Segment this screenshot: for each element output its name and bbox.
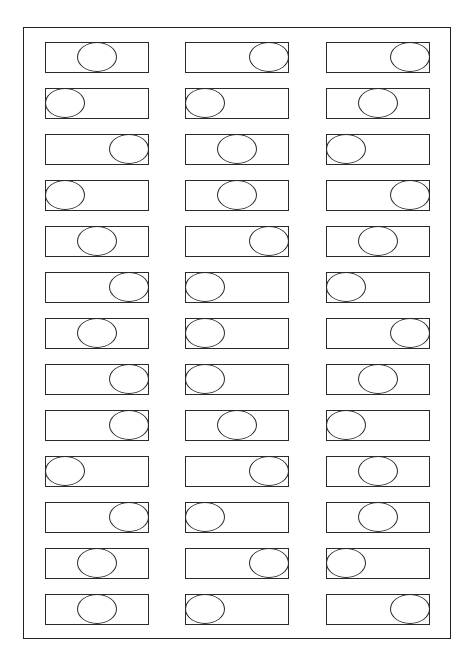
- oval-icon: [217, 134, 257, 164]
- rectangle-cell-r9-c3[interactable]: [326, 410, 430, 441]
- rectangle-cell-r2-c2[interactable]: [185, 88, 289, 119]
- rectangle-cell-r6-c2[interactable]: [185, 272, 289, 303]
- oval-icon: [326, 134, 366, 164]
- oval-icon: [326, 272, 366, 302]
- oval-icon: [77, 226, 117, 256]
- oval-icon: [249, 548, 289, 578]
- oval-icon: [390, 42, 430, 72]
- oval-icon: [45, 456, 85, 486]
- oval-icon: [109, 134, 149, 164]
- rectangle-cell-r5-c2[interactable]: [185, 226, 289, 257]
- rectangle-cell-r13-c2[interactable]: [185, 594, 289, 625]
- oval-icon: [390, 180, 430, 210]
- rectangle-cell-r12-c2[interactable]: [185, 548, 289, 579]
- rectangle-cell-r1-c2[interactable]: [185, 42, 289, 73]
- rectangle-cell-r6-c3[interactable]: [326, 272, 430, 303]
- oval-icon: [185, 594, 225, 624]
- rectangle-cell-r12-c3[interactable]: [326, 548, 430, 579]
- rectangle-cell-r8-c3[interactable]: [326, 364, 430, 395]
- oval-icon: [358, 456, 398, 486]
- rectangle-cell-r3-c3[interactable]: [326, 134, 430, 165]
- rectangle-cell-r3-c2[interactable]: [185, 134, 289, 165]
- oval-icon: [185, 318, 225, 348]
- rectangle-cell-r6-c1[interactable]: [45, 272, 149, 303]
- rectangle-cell-r8-c2[interactable]: [185, 364, 289, 395]
- oval-icon: [326, 410, 366, 440]
- oval-icon: [77, 42, 117, 72]
- oval-icon: [77, 318, 117, 348]
- oval-icon: [77, 594, 117, 624]
- rectangle-cell-r12-c1[interactable]: [45, 548, 149, 579]
- oval-icon: [45, 88, 85, 118]
- rectangle-cell-r10-c2[interactable]: [185, 456, 289, 487]
- rectangle-cell-r3-c1[interactable]: [45, 134, 149, 165]
- oval-icon: [249, 456, 289, 486]
- rectangle-cell-r13-c1[interactable]: [45, 594, 149, 625]
- oval-icon: [358, 226, 398, 256]
- rectangle-cell-r2-c3[interactable]: [326, 88, 430, 119]
- rectangle-cell-r10-c1[interactable]: [45, 456, 149, 487]
- oval-icon: [185, 88, 225, 118]
- oval-icon: [358, 364, 398, 394]
- rectangle-cell-r10-c3[interactable]: [326, 456, 430, 487]
- rectangle-cell-r9-c2[interactable]: [185, 410, 289, 441]
- oval-icon: [326, 548, 366, 578]
- oval-icon: [358, 502, 398, 532]
- oval-icon: [109, 502, 149, 532]
- oval-icon: [390, 594, 430, 624]
- rectangle-cell-r7-c2[interactable]: [185, 318, 289, 349]
- rectangle-cell-r8-c1[interactable]: [45, 364, 149, 395]
- rectangle-cell-r4-c3[interactable]: [326, 180, 430, 211]
- oval-icon: [217, 180, 257, 210]
- oval-icon: [217, 410, 257, 440]
- oval-icon: [185, 502, 225, 532]
- rectangle-cell-r7-c3[interactable]: [326, 318, 430, 349]
- oval-icon: [249, 226, 289, 256]
- oval-icon: [358, 88, 398, 118]
- rectangle-cell-r2-c1[interactable]: [45, 88, 149, 119]
- rectangle-cell-r7-c1[interactable]: [45, 318, 149, 349]
- oval-icon: [109, 364, 149, 394]
- rectangle-cell-r11-c2[interactable]: [185, 502, 289, 533]
- oval-icon: [45, 180, 85, 210]
- rectangle-cell-r4-c2[interactable]: [185, 180, 289, 211]
- rectangle-cell-r9-c1[interactable]: [45, 410, 149, 441]
- oval-icon: [109, 410, 149, 440]
- rectangle-cell-r5-c3[interactable]: [326, 226, 430, 257]
- rectangle-cell-r11-c3[interactable]: [326, 502, 430, 533]
- oval-icon: [185, 364, 225, 394]
- rectangle-cell-r4-c1[interactable]: [45, 180, 149, 211]
- oval-icon: [109, 272, 149, 302]
- oval-icon: [185, 272, 225, 302]
- oval-icon: [249, 42, 289, 72]
- rectangle-cell-r1-c1[interactable]: [45, 42, 149, 73]
- rectangle-cell-r1-c3[interactable]: [326, 42, 430, 73]
- oval-icon: [77, 548, 117, 578]
- rectangle-cell-r11-c1[interactable]: [45, 502, 149, 533]
- rectangle-cell-r5-c1[interactable]: [45, 226, 149, 257]
- oval-icon: [390, 318, 430, 348]
- rectangle-cell-r13-c3[interactable]: [326, 594, 430, 625]
